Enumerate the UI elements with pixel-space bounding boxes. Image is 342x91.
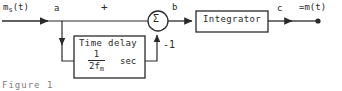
- block-diagram: ms(t) a + Σ b c ≃m(t) -1 Integrator Time…: [0, 0, 342, 91]
- feedback-into-delay-line: [62, 42, 74, 61]
- output-signal-label: ≃m(t): [299, 3, 326, 12]
- time-delay-units-label: sec: [120, 57, 136, 66]
- output-terminal-dot: [315, 18, 320, 23]
- time-delay-block-label: Time delay: [79, 39, 137, 48]
- fraction-denominator-subscript: m: [100, 65, 104, 73]
- fraction-denominator: 2fm: [88, 62, 105, 73]
- input-signal-label: ms(t): [3, 3, 29, 14]
- time-delay-fraction: 1 2fm: [88, 50, 105, 73]
- plus-sign-label: +: [101, 2, 108, 13]
- node-c-label: c: [277, 4, 282, 13]
- integrator-block-label: Integrator: [203, 15, 261, 24]
- node-a-label: a: [54, 4, 59, 13]
- node-b-label: b: [172, 3, 177, 12]
- feedback-gain-label: -1: [163, 40, 175, 50]
- figure-caption: Figure 1: [2, 81, 53, 90]
- fraction-denominator-base: 2f: [89, 61, 100, 71]
- input-signal-argument: (t): [13, 2, 29, 12]
- summing-junction-symbol: Σ: [153, 14, 159, 24]
- fraction-numerator: 1: [88, 50, 105, 59]
- feedback-return-line: [145, 35, 157, 61]
